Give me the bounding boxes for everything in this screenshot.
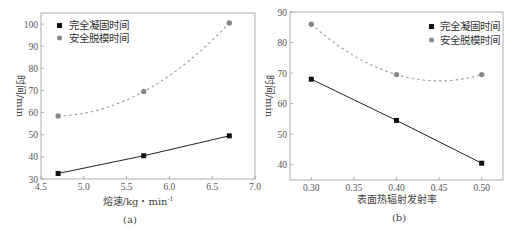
legend-label-2: 安全脱模时间 [440, 34, 500, 46]
y-tick-label: 70 [278, 69, 288, 79]
x-tick-label: 0.35 [346, 183, 363, 193]
x-tick-label: 0.40 [388, 183, 405, 193]
circle-marker-icon [309, 22, 314, 27]
y-tick-label: 40 [278, 160, 288, 170]
x-tick-label: 7.0 [249, 182, 261, 192]
legend-label-2: 安全脱模时间 [69, 32, 129, 44]
y-tick-label: 90 [278, 8, 288, 18]
y-tick-label: 80 [29, 64, 39, 74]
y-tick-label: 30 [29, 175, 39, 185]
legend-square-icon [429, 24, 434, 29]
chart-a: 4.55.05.56.06.57.030405060708090100 完全凝固… [15, 13, 261, 225]
y-tick-label: 40 [29, 152, 39, 162]
square-marker-icon [479, 161, 484, 166]
y-tick-label: 80 [278, 38, 288, 48]
legend-circle-icon [429, 38, 434, 43]
legend-label-1: 完全凝固时间 [69, 19, 129, 31]
x-tick-label: 5.5 [121, 182, 133, 192]
legend-label-1: 完全凝固时间 [440, 20, 500, 32]
circle-marker-icon [479, 72, 484, 77]
y-tick-label: 70 [29, 86, 39, 96]
y-tick-label: 90 [29, 42, 39, 52]
legend-square-icon [57, 23, 62, 28]
square-marker-icon [394, 118, 399, 123]
square-marker-icon [141, 153, 146, 158]
x-tick-label: 0.45 [431, 183, 448, 193]
square-marker-icon [227, 133, 232, 138]
axis-ticks-a: 4.55.05.56.06.57.030405060708090100 [24, 20, 261, 192]
x-tick-label: 0.50 [473, 183, 490, 193]
y-tick-label: 50 [29, 130, 39, 140]
x-tick-label: 6.0 [163, 182, 175, 192]
x-tick-label: 0.30 [303, 183, 320, 193]
caption-a: (a) [123, 214, 137, 225]
circle-marker-icon [394, 72, 399, 77]
y-tick-label: 60 [29, 108, 39, 118]
x-axis-label-b: 表面热辐射发射率 [357, 193, 437, 205]
circle-marker-icon [55, 113, 60, 118]
y-axis-label-a: 时间/min [15, 75, 27, 118]
chart-b: 0.300.350.400.450.50405060708090 完全凝固时间 … [264, 8, 503, 224]
caption-b: (b) [392, 212, 406, 223]
x-axis-label-a: 熔速/kg・min-1 [103, 195, 174, 207]
y-axis-label-b: 时间/min [264, 75, 276, 118]
figure: 4.55.05.56.06.57.030405060708090100 完全凝固… [0, 0, 515, 236]
legend-b: 完全凝固时间 安全脱模时间 [429, 20, 500, 46]
x-tick-label: 6.5 [206, 182, 218, 192]
circle-marker-icon [141, 89, 146, 94]
square-marker-icon [309, 77, 314, 82]
legend-a: 完全凝固时间 安全脱模时间 [57, 19, 129, 44]
legend-circle-icon [57, 36, 62, 41]
square-marker-icon [56, 171, 61, 176]
x-tick-label: 5.0 [78, 182, 90, 192]
circle-marker-icon [227, 20, 232, 25]
y-tick-label: 50 [278, 130, 288, 140]
y-tick-label: 60 [278, 99, 288, 109]
y-tick-label: 100 [24, 20, 39, 30]
